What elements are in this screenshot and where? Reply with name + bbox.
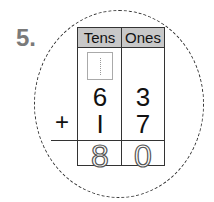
regroup-box[interactable] bbox=[87, 52, 113, 80]
answer-ones[interactable]: 0 bbox=[121, 138, 165, 175]
dotted-one-trace bbox=[100, 58, 101, 75]
cell-ones-row3: 7 bbox=[121, 109, 165, 140]
answer-tens[interactable]: 8 bbox=[78, 138, 122, 175]
header-tens: Tens bbox=[77, 27, 122, 48]
header-ones: Ones bbox=[121, 27, 165, 48]
plus-sign: + bbox=[55, 108, 69, 136]
question-number: 5. bbox=[16, 24, 36, 52]
cell-tens-row3: I bbox=[78, 109, 122, 140]
